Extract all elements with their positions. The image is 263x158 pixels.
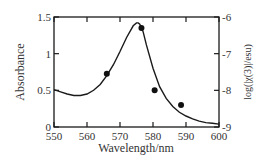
y-tick-label: 1 bbox=[46, 48, 52, 60]
data-point bbox=[104, 71, 110, 77]
axis-ticks bbox=[54, 17, 219, 127]
y2-tick-label: -8 bbox=[222, 84, 232, 96]
x-tick-label: 560 bbox=[79, 130, 96, 142]
data-point bbox=[178, 102, 184, 108]
chart: 55056057058059060000.511.5-9-8-7-6 Wavel… bbox=[0, 0, 263, 158]
y2-tick-label: -6 bbox=[222, 11, 232, 23]
data-point bbox=[152, 87, 158, 93]
y2-tick-label: -7 bbox=[222, 48, 232, 60]
y-tick-label: 0 bbox=[46, 121, 52, 133]
data-point bbox=[138, 25, 144, 31]
y-tick-label: 1.5 bbox=[37, 11, 51, 23]
y2-tick-label: -9 bbox=[222, 121, 232, 133]
x-tick-label: 590 bbox=[178, 130, 195, 142]
x-axis-label: Wavelength/nm bbox=[98, 141, 174, 155]
y2-axis-label: log(|χ(3)|/esu) bbox=[242, 44, 254, 100]
absorbance-curve bbox=[54, 23, 219, 124]
plot-frame bbox=[54, 17, 219, 127]
y-axis-label: Absorbance bbox=[13, 43, 27, 100]
y-tick-label: 0.5 bbox=[37, 84, 51, 96]
